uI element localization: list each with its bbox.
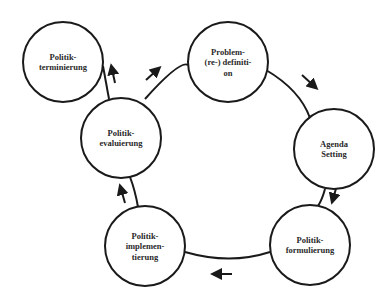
connector-evaluierung-terminierung <box>103 66 109 99</box>
node-label: Politik- <box>108 128 135 138</box>
arrow-up-terminierung-icon <box>112 69 115 83</box>
arrow-up-icon <box>121 189 125 203</box>
connector-implementierung-evaluierung <box>130 177 138 207</box>
node-terminierung: Politik-terminierung <box>23 22 103 102</box>
connector-formulierung-implementierung <box>185 252 270 259</box>
node-label: Politik- <box>50 52 77 62</box>
node-label: terminierung <box>39 62 88 72</box>
connector-evaluierung-problem <box>145 64 188 99</box>
node-label: implemen- <box>126 241 165 251</box>
arrow-up-right-icon <box>146 70 157 80</box>
node-agenda: AgendaSetting <box>294 109 374 189</box>
cycle-nodes: Problem-(re-) definiti-onAgendaSettingPo… <box>23 22 374 286</box>
node-label: Setting <box>321 149 347 159</box>
node-label: evaluierung <box>100 138 144 148</box>
node-label: formulierung <box>286 245 335 255</box>
node-label: tierung <box>132 252 159 262</box>
node-label: Problem- <box>211 47 245 57</box>
node-label: Politik- <box>132 231 159 241</box>
node-implementierung: Politik-implemen-tierung <box>105 206 185 286</box>
node-formulierung: Politik-formulierung <box>270 205 350 285</box>
node-label: Politik- <box>297 235 324 245</box>
connector-agenda-formulierung <box>318 189 325 206</box>
node-label: (re-) definiti- <box>205 57 252 67</box>
arrow-down-right-icon <box>302 75 314 86</box>
node-evaluierung: Politik-evaluierung <box>81 98 161 178</box>
node-label: Agenda <box>320 139 349 149</box>
policy-cycle-diagram: Problem-(re-) definiti-onAgendaSettingPo… <box>0 0 391 303</box>
node-label: on <box>224 68 233 78</box>
node-problem: Problem-(re-) definiti-on <box>188 22 268 102</box>
